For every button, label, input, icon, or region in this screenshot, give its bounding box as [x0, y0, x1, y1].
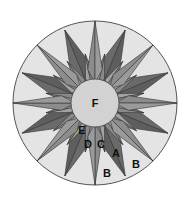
label-f: F: [92, 97, 99, 109]
label-b: B: [132, 158, 140, 170]
label-c: C: [97, 138, 105, 150]
label-e: E: [78, 124, 85, 136]
label-a: A: [112, 147, 120, 159]
label-d: D: [84, 138, 92, 150]
label-b: B: [103, 167, 111, 179]
compass-star-diagram: FEDCABB: [0, 0, 189, 200]
